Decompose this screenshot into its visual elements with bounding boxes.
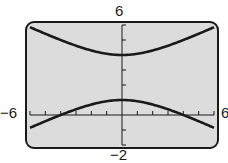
graph-plot bbox=[27, 23, 217, 147]
x-min-label: −6 bbox=[0, 105, 17, 120]
y-max-label: 6 bbox=[115, 3, 123, 18]
calculator-screen bbox=[25, 21, 219, 149]
x-max-label: 6 bbox=[221, 105, 228, 120]
y-min-label: −2 bbox=[110, 147, 127, 162]
